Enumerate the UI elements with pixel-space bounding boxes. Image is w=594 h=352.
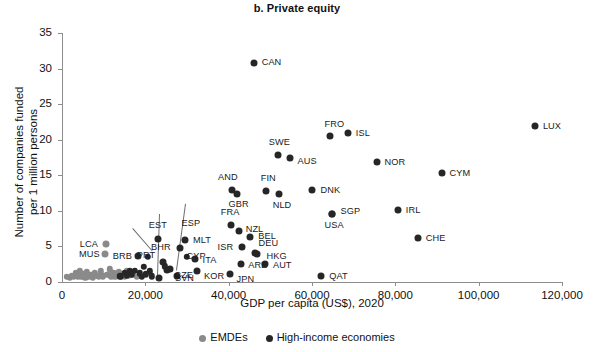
data-point-FRA: [227, 222, 234, 229]
point-label-SWE: SWE: [269, 137, 290, 147]
y-tick-25: 25: [58, 104, 62, 105]
x-axis-label: GDP per capita (US$), 2020: [62, 297, 562, 309]
point-label-CYM: CYM: [450, 168, 471, 178]
point-label-SGP: SGP: [340, 206, 360, 216]
data-point-GBR: [234, 191, 241, 198]
y-axis-label-line1: Number of companies funded: [13, 87, 25, 238]
data-point-FIN: [262, 187, 269, 194]
data-point-AUS: [286, 154, 293, 161]
data-point-QAT: [318, 273, 325, 280]
data-point-ISL: [344, 130, 351, 137]
point-label-SVN: SVN: [175, 273, 194, 283]
legend-label: High-income economies: [277, 331, 395, 343]
private-equity-scatter-figure: b. Private equity Number of companies fu…: [0, 0, 594, 352]
point-label-EST: EST: [149, 220, 167, 230]
x-tick-40,000: [229, 282, 230, 286]
point-label-ESP: ESP: [182, 218, 201, 228]
y-axis-label-line2: per 1 million persons: [27, 109, 39, 215]
point-label-GBR: GBR: [228, 199, 248, 209]
y-axis-label: Number of companies funded per 1 million…: [12, 62, 40, 262]
point-label-ISL: ISL: [356, 128, 370, 138]
data-point-DNK: [309, 187, 316, 194]
y-axis-line: [62, 33, 63, 282]
data-point-ARE: [238, 261, 245, 268]
data-point-SWE: [274, 151, 281, 158]
legend-swatch-icon: [199, 335, 206, 342]
data-point-LUX: [531, 123, 538, 130]
y-tick-label-5: 5: [46, 239, 52, 251]
y-tick-35: 35: [58, 33, 62, 34]
point-label-CAN: CAN: [262, 57, 282, 67]
data-point-CHE: [414, 234, 421, 241]
data-point-MLT: [181, 237, 188, 244]
data-point-CYP: [176, 244, 183, 251]
x-tick-20,000: [145, 282, 146, 286]
y-tick-label-20: 20: [39, 133, 52, 145]
point-label-FIN: FIN: [261, 173, 276, 183]
y-tick-label-25: 25: [39, 97, 52, 109]
data-point-SVN: [166, 266, 173, 273]
data-point-NZL: [235, 227, 242, 234]
point-label-DEU: DEU: [259, 238, 279, 248]
point-label-IRL: IRL: [406, 205, 421, 215]
data-point-BHR: [156, 274, 163, 281]
point-label-FRO: FRO: [325, 119, 345, 129]
point-label-DNK: DNK: [320, 185, 340, 195]
sau-leader: [132, 228, 153, 252]
x-tick-120,000: [562, 282, 563, 286]
y-tick-label-15: 15: [39, 168, 52, 180]
y-tick-15: 15: [58, 175, 62, 176]
point-label-PRT: PRT: [137, 250, 156, 260]
x-tick-100,000: [479, 282, 480, 286]
data-point-KOR: [194, 267, 201, 274]
y-tick-20: 20: [58, 140, 62, 141]
chart-title: b. Private equity: [0, 2, 594, 14]
point-label-ARE: ARE: [248, 260, 267, 270]
point-label-KOR: KOR: [204, 271, 224, 281]
legend-item-emdes[interactable]: EMDEs: [199, 331, 247, 343]
data-point-FRO: [326, 133, 333, 140]
point-label-HKG: HKG: [267, 251, 287, 261]
x-tick-80,000: [395, 282, 396, 286]
point-label-NOR: NOR: [385, 157, 406, 167]
data-point-MUS: [101, 251, 108, 258]
point-label-NLD: NLD: [273, 200, 292, 210]
y-tick-0: 0: [58, 282, 62, 283]
y-tick-label-0: 0: [46, 275, 52, 287]
chart-legend: EMDEsHigh-income economies: [0, 330, 594, 343]
data-point-NOR: [373, 158, 380, 165]
y-tick-30: 30: [58, 69, 62, 70]
data-point-BEL: [247, 234, 254, 241]
x-tick-60,000: [312, 282, 313, 286]
plot-area: 05101520253035 020,00040,00060,00080,000…: [62, 33, 562, 282]
point-label-JPN: JPN: [237, 274, 255, 284]
point-label-CHE: CHE: [426, 233, 446, 243]
point-label-USA: USA: [325, 220, 344, 230]
data-point-ISR: [238, 244, 245, 251]
data-point-JPN: [226, 271, 233, 278]
point-label-MUS: MUS: [79, 249, 100, 259]
point-label-AUS: AUS: [298, 156, 317, 166]
y-tick-10: 10: [58, 211, 62, 212]
data-point: [148, 273, 154, 279]
point-label-MLT: MLT: [193, 235, 211, 245]
y-tick-label-30: 30: [39, 62, 52, 74]
data-point-LCA: [102, 240, 109, 247]
point-label-ISR: ISR: [218, 242, 234, 252]
point-label-QAT: QAT: [329, 271, 348, 281]
data-point-CAN: [250, 59, 257, 66]
point-label-AND: AND: [218, 172, 238, 182]
point-label-LCA: LCA: [80, 239, 98, 249]
data-point-CYM: [438, 170, 445, 177]
legend-label: EMDEs: [210, 331, 247, 343]
point-label-BRB: BRB: [113, 251, 132, 261]
point-label-ITA: ITA: [203, 255, 217, 265]
legend-swatch-icon: [266, 335, 273, 342]
legend-item-high-income-economies[interactable]: High-income economies: [266, 331, 395, 343]
y-tick-5: 5: [58, 246, 62, 247]
point-label-AUT: AUT: [273, 260, 292, 270]
point-label-LUX: LUX: [543, 121, 561, 131]
data-point-NLD: [275, 191, 282, 198]
y-tick-label-35: 35: [39, 26, 52, 38]
data-point-SGP: [329, 210, 336, 217]
